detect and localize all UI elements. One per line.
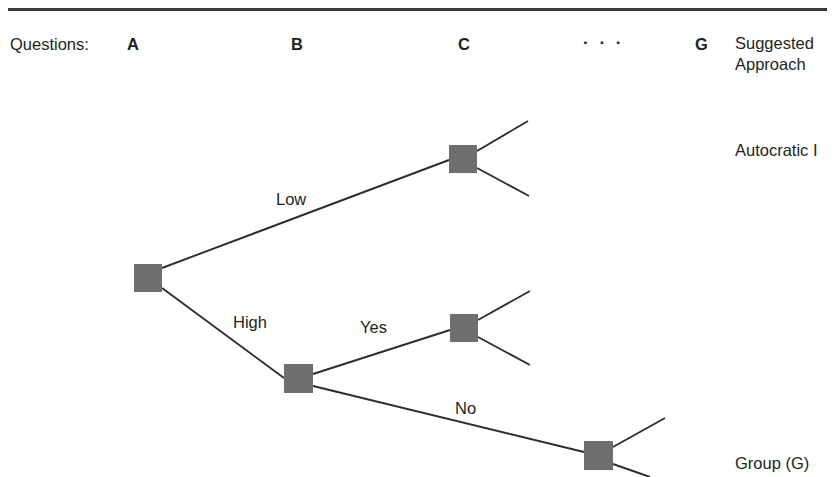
edge-label-high: High [233,313,267,331]
tree-edge-a1-b1 [162,288,284,378]
tree-edge-c1-down [477,168,529,196]
tree-edge-labels: LowHighYesNo [233,190,476,417]
edge-label-low: Low [276,190,306,208]
edge-label-no: No [455,399,476,417]
tree-edge-c2-down [478,337,530,365]
decision-node-c1 [449,145,477,173]
tree-edges [162,121,665,477]
tree-nodes [134,145,613,470]
decision-tree-graphic: LowHighYesNo [0,0,835,477]
decision-node-g1 [584,441,613,470]
tree-edge-a1-c1 [162,160,449,268]
tree-edge-b1-c2 [313,330,450,374]
tree-edge-c2-up [478,291,530,320]
tree-edge-g1-up [613,418,665,447]
edge-label-yes: Yes [360,318,387,336]
tree-edge-g1-down [613,464,650,477]
decision-node-a1 [134,264,162,292]
tree-edge-b1-g1 [313,386,584,452]
tree-edge-c1-up [477,121,528,151]
decision-node-c2 [450,314,478,342]
diagram-page: Questions: A B C · · · G Suggested Appro… [0,0,835,477]
decision-node-b1 [284,364,313,393]
